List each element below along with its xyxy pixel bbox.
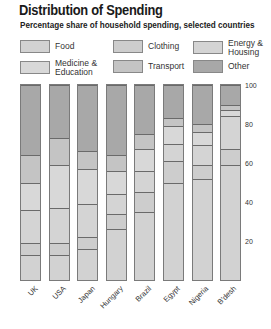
bar-segment-food bbox=[50, 255, 69, 280]
bar-segment-food bbox=[193, 179, 212, 280]
legend-item-medicine-education: Medicine & Education bbox=[20, 59, 97, 76]
x-label: Egypt bbox=[161, 284, 181, 304]
bar-segment-food bbox=[164, 183, 183, 281]
x-label: B'desh bbox=[216, 284, 238, 306]
legend-label: Clothing bbox=[148, 42, 179, 51]
legend-swatch-clothing bbox=[113, 40, 143, 53]
x-label: Nigeria bbox=[187, 284, 210, 307]
legend-swatch-energy-housing bbox=[193, 41, 223, 54]
bar-segment-food bbox=[78, 249, 97, 280]
bar-segment-other bbox=[107, 85, 126, 155]
bar-segment-medicine-education bbox=[50, 165, 69, 208]
bar-segment-transport bbox=[107, 155, 126, 171]
bar-segment-food bbox=[107, 229, 126, 280]
y-tick: 100 bbox=[245, 82, 257, 89]
legend-label: Other bbox=[228, 62, 249, 71]
bar-segment-energy-housing bbox=[164, 144, 183, 162]
bar-segment-clothing bbox=[164, 161, 183, 182]
chart-subtitle: Percentage share of household spending, … bbox=[20, 20, 255, 30]
bar-segment-medicine-education bbox=[107, 171, 126, 194]
legend-label: Food bbox=[55, 42, 74, 51]
bar-segment-food bbox=[221, 165, 240, 280]
bar-segment-food bbox=[21, 255, 40, 280]
bar-segment-clothing bbox=[21, 243, 40, 255]
bar-segment-medicine-education bbox=[193, 132, 212, 146]
bar-segment-energy-housing bbox=[50, 208, 69, 243]
bar-segment-clothing bbox=[135, 192, 154, 212]
bar-segment-medicine-education bbox=[135, 149, 154, 170]
bar-segment-energy-housing bbox=[107, 194, 126, 214]
legend-swatch-transport bbox=[113, 60, 143, 73]
bar-segment-medicine-education bbox=[21, 183, 40, 210]
bar-hungary bbox=[106, 84, 127, 281]
legend-swatch-medicine-education bbox=[20, 61, 50, 74]
bar-segment-clothing bbox=[221, 149, 240, 165]
bar-segment-other bbox=[221, 85, 240, 105]
legend-label: Medicine & Education bbox=[55, 59, 97, 76]
bar-nigeria bbox=[192, 84, 213, 281]
legend-item-food: Food bbox=[20, 40, 74, 53]
legend-swatch-other bbox=[193, 60, 223, 73]
bar-segment-other bbox=[164, 85, 183, 118]
bar-segment-medicine-education bbox=[78, 169, 97, 204]
x-label: Japan bbox=[76, 284, 97, 305]
bar-egypt bbox=[163, 84, 184, 281]
bar-segment-other bbox=[50, 85, 69, 138]
bar-brazil bbox=[134, 84, 155, 281]
legend-swatch-food bbox=[20, 40, 50, 53]
bar-segment-other bbox=[193, 85, 212, 124]
bar-uk bbox=[20, 84, 41, 281]
chart-title: Distribution of Spending bbox=[19, 2, 163, 18]
bar-usa bbox=[49, 84, 70, 281]
legend-item-other: Other bbox=[193, 60, 249, 73]
bar-segment-energy-housing bbox=[78, 204, 97, 237]
bar-segment-transport bbox=[193, 124, 212, 132]
bar-segment-energy-housing bbox=[135, 171, 154, 192]
legend-label: Energy & Housing bbox=[228, 39, 263, 56]
bar-segment-other bbox=[78, 85, 97, 151]
y-tick: 40 bbox=[245, 199, 253, 206]
x-label: UK bbox=[26, 284, 40, 298]
bar-segment-clothing bbox=[107, 214, 126, 230]
legend-item-clothing: Clothing bbox=[113, 40, 179, 53]
bar-segment-clothing bbox=[50, 243, 69, 255]
bar-segment-energy-housing bbox=[21, 210, 40, 243]
bar-segment-transport bbox=[78, 151, 97, 169]
x-label: Hungary bbox=[98, 284, 124, 310]
bar-segment-medicine-education bbox=[221, 110, 240, 116]
bar-segment-transport bbox=[21, 155, 40, 182]
y-tick: 20 bbox=[245, 238, 253, 245]
x-label: USA bbox=[50, 284, 67, 301]
bar-segment-food bbox=[135, 212, 154, 280]
bar-segment-transport bbox=[135, 134, 154, 150]
x-label: Brazil bbox=[134, 284, 154, 304]
bar-segment-other bbox=[21, 85, 40, 155]
y-tick: 60 bbox=[245, 160, 253, 167]
bar-segment-transport bbox=[164, 118, 183, 126]
bar-segment-transport bbox=[221, 105, 240, 111]
y-tick: 80 bbox=[245, 121, 253, 128]
bar-segment-transport bbox=[50, 138, 69, 165]
bar-segment-clothing bbox=[78, 237, 97, 249]
bar-segment-medicine-education bbox=[164, 126, 183, 144]
legend-item-energy-housing: Energy & Housing bbox=[193, 39, 263, 56]
bar-segment-energy-housing bbox=[193, 145, 212, 165]
bar-bdesh bbox=[220, 84, 241, 281]
bar-japan bbox=[77, 84, 98, 281]
bar-segment-energy-housing bbox=[221, 116, 240, 149]
legend-label: Transport bbox=[148, 62, 184, 71]
legend-item-transport: Transport bbox=[113, 60, 184, 73]
bar-segment-other bbox=[135, 85, 154, 134]
bar-segment-clothing bbox=[193, 165, 212, 179]
